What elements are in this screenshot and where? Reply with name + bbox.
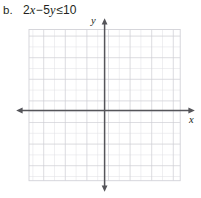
x-axis-label: x xyxy=(189,115,194,126)
coordinate-plane: y x xyxy=(0,14,201,198)
coordinate-grid-svg xyxy=(0,14,201,198)
y-axis-label: y xyxy=(91,16,96,27)
worksheet-figure: b. 2x−5y≤10 xyxy=(0,0,201,198)
